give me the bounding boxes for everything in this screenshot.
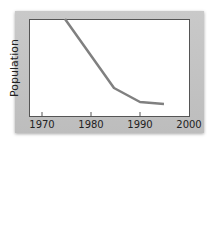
x-ticks [42, 112, 140, 117]
x-tick-1990: 1990 [127, 119, 152, 130]
x-tick-1980: 1980 [78, 119, 103, 130]
x-tick-2000: 2000 [176, 119, 201, 130]
x-tick-1970: 1970 [29, 119, 54, 130]
